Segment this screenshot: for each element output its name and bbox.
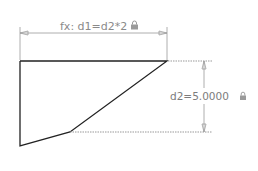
lock-icon: [131, 21, 138, 30]
lock-icon: [240, 92, 246, 100]
dimension-d2[interactable]: d2=5.0000: [70, 61, 246, 132]
dimension-d1-label[interactable]: fx: d1=d2*2: [60, 20, 127, 33]
sketch-profile[interactable]: [20, 61, 167, 146]
dimension-d2-label[interactable]: d2=5.0000: [170, 90, 229, 102]
sketch-canvas[interactable]: fx: d1=d2*2 d2=5.0000: [0, 0, 258, 171]
dimension-d1[interactable]: fx: d1=d2*2: [20, 20, 167, 60]
